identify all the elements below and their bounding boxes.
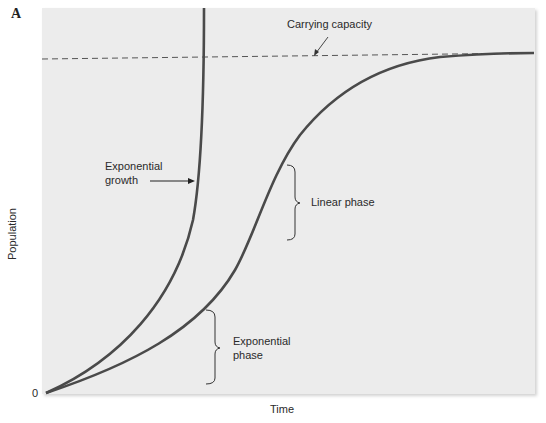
exponential-growth-label-line2: growth	[105, 174, 138, 187]
exponential-growth-label-line1: Exponential	[105, 160, 163, 173]
exponential-phase-label-line1: Exponential	[233, 335, 291, 348]
carrying-capacity-label: Carrying capacity	[287, 18, 372, 31]
x-axis-label: Time	[270, 403, 294, 415]
linear-phase-bracket	[287, 165, 300, 240]
linear-phase-label: Linear phase	[311, 196, 375, 209]
chart-svg	[0, 0, 546, 423]
exponential-phase-bracket	[206, 310, 220, 384]
arrowhead-icon	[188, 178, 195, 184]
exponential-growth-curve	[46, 8, 204, 393]
exponential-phase-label-line2: phase	[233, 349, 263, 362]
y-axis-label: Population	[6, 208, 18, 260]
y-origin-tick: 0	[32, 387, 38, 399]
carrying-capacity-arrow	[316, 37, 328, 53]
